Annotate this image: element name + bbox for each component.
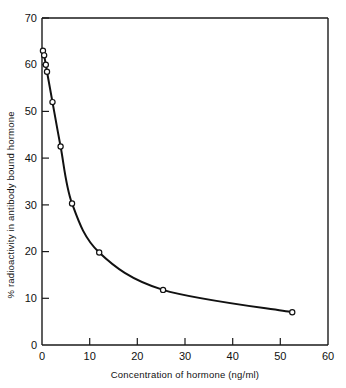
- x-tick-label-40: 40: [227, 350, 239, 362]
- data-point: [290, 310, 295, 315]
- y-tick-label-40: 40: [25, 152, 37, 164]
- chart-figure: 70 60 50 40 30 20 10 0 0 10 20 30 40 50 …: [0, 0, 346, 388]
- data-point: [69, 201, 74, 206]
- data-point-markers: [40, 48, 295, 315]
- x-tick-label-50: 50: [274, 350, 286, 362]
- x-tick-label-10: 10: [84, 350, 96, 362]
- x-tick-label-60: 60: [322, 350, 334, 362]
- x-axis-tick-labels: 0 10 20 30 40 50 60: [39, 350, 334, 362]
- y-tick-label-50: 50: [25, 105, 37, 117]
- y-tick-label-60: 60: [25, 58, 37, 70]
- data-point: [43, 62, 48, 67]
- y-tick-label-20: 20: [25, 245, 37, 257]
- y-tick-label-70: 70: [25, 12, 37, 24]
- x-tick-label-0: 0: [39, 350, 45, 362]
- data-curve: [43, 51, 292, 313]
- data-point: [50, 99, 55, 104]
- standard-curve-chart: 70 60 50 40 30 20 10 0 0 10 20 30 40 50 …: [0, 0, 346, 388]
- data-point: [44, 69, 49, 74]
- x-axis-ticks: [90, 338, 281, 345]
- y-axis-title: % radioactivity in antibody bound hormon…: [5, 111, 16, 298]
- data-point: [97, 250, 102, 255]
- data-point: [42, 53, 47, 58]
- y-axis-tick-labels: 70 60 50 40 30 20 10 0: [25, 12, 37, 351]
- data-point: [58, 144, 63, 149]
- y-tick-label-0: 0: [31, 339, 37, 351]
- x-axis-title: Concentration of hormone (ng/ml): [111, 369, 259, 380]
- x-tick-label-30: 30: [179, 350, 191, 362]
- y-tick-label-30: 30: [25, 199, 37, 211]
- y-tick-label-10: 10: [25, 292, 37, 304]
- x-tick-label-20: 20: [131, 350, 143, 362]
- data-point: [160, 287, 165, 292]
